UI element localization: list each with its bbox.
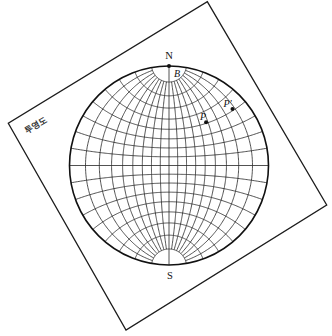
point-b-label: B <box>174 68 180 79</box>
stereonet-diagram: 투영도 N S B P P' <box>0 0 332 336</box>
point-b-marker <box>167 64 171 68</box>
point-p-label: P <box>199 111 206 122</box>
point-p-prime-label: P' <box>222 98 232 109</box>
south-label: S <box>167 270 173 281</box>
north-label: N <box>165 50 173 61</box>
